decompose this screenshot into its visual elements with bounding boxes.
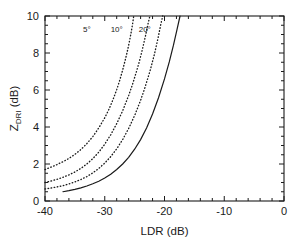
axis-tick-labels: -40-30-20-1000246810 — [27, 10, 287, 217]
curve-label: 10° — [111, 25, 123, 34]
x-tick-label: -30 — [97, 205, 113, 217]
svg-text:ZDRI (dB): ZDRI (dB) — [8, 85, 23, 131]
y-tick-label: 10 — [27, 10, 39, 22]
y-tick-label: 4 — [33, 121, 39, 133]
curve-20 — [45, 16, 163, 189]
x-tick-label: -20 — [157, 205, 173, 217]
curve-solid — [63, 16, 180, 192]
curve-label: 5° — [83, 25, 91, 34]
x-tick-label: -40 — [37, 205, 53, 217]
chart-canvas: -40-30-20-1000246810 5°10°20° LDR (dB)ZD… — [0, 0, 297, 241]
y-tick-label: 6 — [33, 84, 39, 96]
curve-label: 20° — [139, 25, 151, 34]
curve-labels: 5°10°20° — [83, 25, 151, 34]
curve-10 — [45, 16, 150, 183]
x-tick-label: 0 — [281, 205, 287, 217]
axis-ticks — [45, 16, 284, 201]
x-axis-title: LDR (dB) — [141, 225, 189, 237]
y-tick-label: 2 — [33, 158, 39, 170]
plot-frame — [45, 16, 284, 201]
chart-figure: -40-30-20-1000246810 5°10°20° LDR (dB)ZD… — [0, 0, 297, 241]
data-curves — [45, 16, 180, 192]
curve-5 — [45, 16, 134, 170]
y-axis-title: ZDRI (dB) — [8, 85, 23, 131]
y-tick-label: 0 — [33, 195, 39, 207]
x-tick-label: -10 — [216, 205, 232, 217]
y-tick-label: 8 — [33, 47, 39, 59]
